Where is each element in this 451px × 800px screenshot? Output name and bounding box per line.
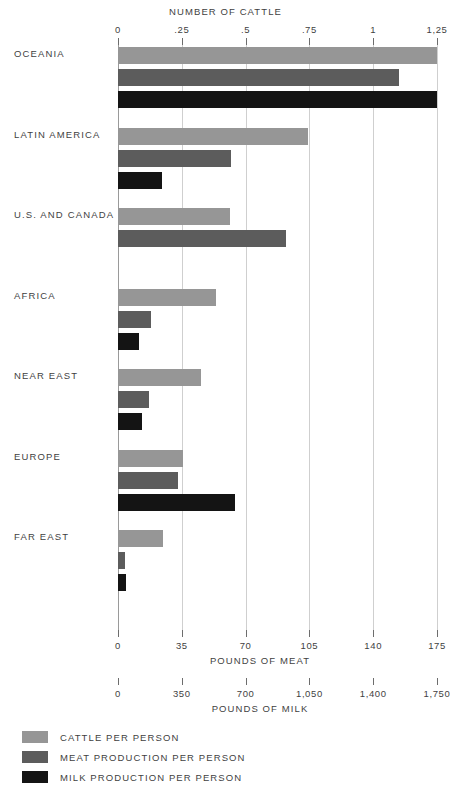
milk-axis-tick-label: 1,400: [360, 688, 387, 699]
legend: CATTLE PER PERSON MEAT PRODUCTION PER PE…: [22, 727, 246, 787]
milk-axis-tick-mark: [246, 678, 247, 685]
meat-axis-tick-label: 35: [176, 640, 188, 651]
bar-milk: [118, 333, 139, 350]
bar-cattle: [118, 208, 230, 225]
milk-axis-tick-label: 0: [115, 688, 121, 699]
legend-label-cattle: CATTLE PER PERSON: [60, 732, 179, 743]
meat-axis-tick-mark: [437, 630, 438, 637]
chart-root: NUMBER OF CATTLE POUNDS OF MEAT POUNDS O…: [0, 0, 451, 800]
bar-milk: [118, 91, 437, 108]
legend-item-meat: MEAT PRODUCTION PER PERSON: [22, 747, 246, 767]
category-label-u-s-and-canada: U.S. AND CANADA: [14, 209, 114, 220]
meat-axis-tick-mark: [118, 630, 119, 637]
cattle-axis-tick-mark: [373, 38, 374, 45]
axis-title-pounds-of-milk: POUNDS OF MILK: [90, 703, 430, 714]
bar-milk: [118, 494, 235, 511]
bar-cattle: [118, 289, 216, 306]
legend-item-cattle: CATTLE PER PERSON: [22, 727, 246, 747]
gridline: [309, 45, 310, 630]
gridline: [373, 45, 374, 630]
bar-milk: [118, 172, 162, 189]
meat-axis-tick-mark: [246, 630, 247, 637]
milk-axis-tick-mark: [182, 678, 183, 685]
cattle-axis-tick-mark: [309, 38, 310, 45]
cattle-axis-tick-label: .5: [241, 24, 250, 35]
meat-axis-tick-label: 0: [115, 640, 121, 651]
bar-cattle: [118, 450, 183, 467]
category-label-near-east: NEAR EAST: [14, 370, 78, 381]
bar-cattle: [118, 128, 308, 145]
meat-axis-tick-mark: [182, 630, 183, 637]
bar-meat: [118, 472, 178, 489]
cattle-axis-tick-label: .25: [174, 24, 189, 35]
meat-axis-tick-label: 105: [301, 640, 319, 651]
cattle-axis-tick-mark: [437, 38, 438, 45]
milk-axis-tick-mark: [373, 678, 374, 685]
legend-label-meat: MEAT PRODUCTION PER PERSON: [60, 752, 246, 763]
meat-axis-tick-mark: [309, 630, 310, 637]
category-label-latin-america: LATIN AMERICA: [14, 129, 101, 140]
cattle-axis-tick-mark: [246, 38, 247, 45]
legend-swatch-cattle-icon: [22, 731, 48, 743]
legend-swatch-milk-icon: [22, 771, 48, 783]
milk-axis-tick-mark: [118, 678, 119, 685]
category-label-europe: EUROPE: [14, 451, 61, 462]
legend-swatch-meat-icon: [22, 751, 48, 763]
cattle-axis-tick-mark: [118, 38, 119, 45]
meat-axis-tick-label: 175: [428, 640, 446, 651]
milk-axis-tick-label: 350: [173, 688, 191, 699]
cattle-axis-tick-label: 1,25: [427, 24, 448, 35]
bar-milk: [118, 574, 126, 591]
legend-label-milk: MILK PRODUCTION PER PERSON: [60, 772, 242, 783]
bar-meat: [118, 69, 399, 86]
bar-meat: [118, 230, 286, 247]
cattle-axis-tick-label: 0: [115, 24, 121, 35]
meat-axis-tick-mark: [373, 630, 374, 637]
bar-meat: [118, 552, 125, 569]
milk-axis-tick-mark: [437, 678, 438, 685]
category-label-africa: AFRICA: [14, 290, 56, 301]
bar-meat: [118, 391, 149, 408]
milk-axis-tick-label: 1,050: [296, 688, 323, 699]
meat-axis-tick-label: 70: [240, 640, 252, 651]
milk-axis-tick-label: 700: [237, 688, 255, 699]
bar-milk: [118, 413, 142, 430]
gridline: [437, 45, 438, 630]
bar-meat: [118, 311, 151, 328]
cattle-axis-tick-mark: [182, 38, 183, 45]
axis-title-pounds-of-meat: POUNDS OF MEAT: [90, 655, 430, 666]
bar-cattle: [118, 369, 201, 386]
category-label-far-east: FAR EAST: [14, 531, 69, 542]
meat-axis-tick-label: 140: [364, 640, 382, 651]
axis-title-number-of-cattle: NUMBER OF CATTLE: [0, 6, 451, 17]
bar-cattle: [118, 530, 163, 547]
cattle-axis-tick-label: .75: [302, 24, 317, 35]
bar-cattle: [118, 47, 437, 64]
bar-meat: [118, 150, 231, 167]
milk-axis-tick-label: 1,750: [424, 688, 451, 699]
milk-axis-tick-mark: [309, 678, 310, 685]
cattle-axis-tick-label: 1: [370, 24, 376, 35]
legend-item-milk: MILK PRODUCTION PER PERSON: [22, 767, 246, 787]
category-label-oceania: OCEANIA: [14, 48, 65, 59]
